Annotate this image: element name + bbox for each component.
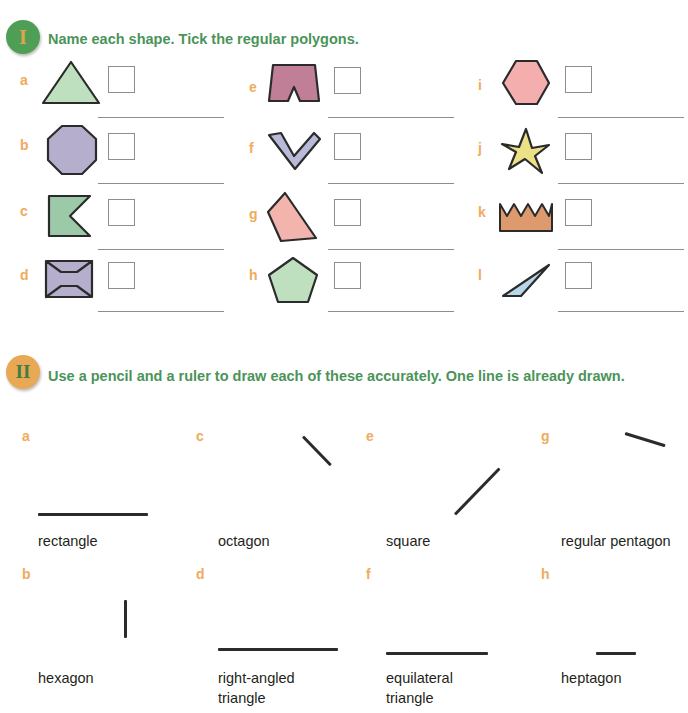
question-letter-a: a	[20, 72, 28, 88]
shape-octagon	[45, 124, 99, 180]
question-letter-c: c	[20, 203, 28, 219]
question-letter-d: d	[20, 267, 29, 283]
tick-box-b[interactable]	[108, 133, 135, 160]
section-badge-2: II	[6, 355, 40, 389]
question-letter-i: i	[478, 77, 482, 93]
shape-thin-triangle	[500, 262, 554, 304]
answer-line-i[interactable]	[558, 117, 684, 118]
drawn-line-b	[124, 600, 127, 638]
question-letter-h: h	[249, 267, 258, 283]
answer-line-d[interactable]	[98, 311, 224, 312]
shape-chevron	[265, 130, 323, 176]
answer-line-j[interactable]	[558, 183, 684, 184]
draw-letter-e: e	[366, 428, 374, 444]
draw-label-a: rectangle	[38, 531, 208, 551]
tick-box-d[interactable]	[108, 262, 135, 289]
question-letter-f: f	[249, 140, 254, 156]
question-letter-g: g	[249, 206, 258, 222]
draw-label-b: hexagon	[38, 668, 208, 688]
drawn-line-d	[218, 648, 338, 651]
question-letter-j: j	[478, 140, 482, 156]
draw-label-h: heptagon	[561, 668, 688, 688]
draw-letter-d: d	[196, 566, 205, 582]
answer-line-c[interactable]	[98, 249, 224, 250]
answer-line-f[interactable]	[328, 183, 454, 184]
shape-pentagon	[266, 255, 320, 309]
draw-letter-a: a	[22, 428, 30, 444]
shape-crown-zigzag	[497, 199, 555, 239]
drawn-line-a	[38, 513, 148, 516]
answer-line-l[interactable]	[558, 311, 684, 312]
drawn-line-c	[302, 435, 332, 466]
section-badge-1: I	[6, 20, 40, 54]
question-letter-l: l	[478, 267, 482, 283]
draw-label-g: regular pentagon	[561, 531, 688, 551]
tick-box-l[interactable]	[565, 262, 592, 289]
shape-bowtie-hexagon	[43, 258, 95, 304]
answer-line-e[interactable]	[328, 117, 454, 118]
shape-concave-flag-pentagon	[46, 193, 94, 245]
section-2-heading: Use a pencil and a ruler to draw each of…	[48, 366, 648, 387]
draw-label-e: square	[386, 531, 556, 551]
draw-letter-f: f	[366, 566, 371, 582]
shape-triangle	[40, 60, 102, 109]
question-letter-k: k	[478, 204, 486, 220]
drawn-line-f	[386, 652, 488, 655]
answer-line-h[interactable]	[328, 311, 454, 312]
question-letter-e: e	[249, 79, 257, 95]
shape-notched-trapezium	[266, 62, 322, 108]
drawn-line-h	[596, 652, 636, 655]
tick-box-f[interactable]	[334, 133, 361, 160]
answer-line-a[interactable]	[98, 117, 224, 118]
drawn-line-e	[454, 467, 501, 515]
shape-star	[498, 126, 554, 180]
answer-line-g[interactable]	[328, 249, 454, 250]
shape-hexagon	[500, 58, 552, 112]
tick-box-h[interactable]	[334, 262, 361, 289]
draw-letter-c: c	[196, 428, 204, 444]
tick-box-g[interactable]	[334, 199, 361, 226]
draw-label-d: right-angled triangle	[218, 668, 388, 708]
draw-letter-h: h	[541, 566, 550, 582]
draw-label-f: equilateral triangle	[386, 668, 556, 708]
question-letter-b: b	[20, 137, 29, 153]
shape-irregular-quadrilateral	[265, 190, 321, 248]
draw-letter-b: b	[22, 566, 31, 582]
drawn-line-g	[625, 432, 666, 447]
tick-box-k[interactable]	[565, 199, 592, 226]
tick-box-j[interactable]	[565, 133, 592, 160]
tick-box-c[interactable]	[108, 199, 135, 226]
tick-box-i[interactable]	[565, 66, 592, 93]
tick-box-a[interactable]	[108, 66, 135, 93]
answer-line-b[interactable]	[98, 183, 224, 184]
tick-box-e[interactable]	[334, 67, 361, 94]
draw-letter-g: g	[541, 428, 550, 444]
section-1-heading: Name each shape. Tick the regular polygo…	[48, 29, 468, 50]
worksheet-page: I Name each shape. Tick the regular poly…	[0, 0, 688, 713]
answer-line-k[interactable]	[558, 249, 684, 250]
draw-label-c: octagon	[218, 531, 388, 551]
